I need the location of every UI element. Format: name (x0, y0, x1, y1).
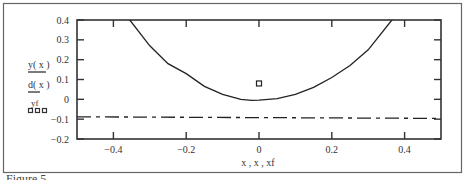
plot-frame (77, 20, 441, 139)
y-tick-label: 0 (64, 94, 69, 105)
x-axis-title: x , x , xf (241, 157, 275, 168)
legend-label-d: d( x ) (28, 79, 50, 91)
x-tick-label: −0.4 (104, 144, 122, 155)
data-point-square (257, 81, 262, 86)
y-tick-label: −0.1 (51, 114, 69, 125)
y-tick-label: 0.4 (57, 15, 70, 26)
plot-area (77, 0, 441, 139)
legend: y( x ) d( x ) yf (28, 59, 50, 113)
x-tick-label: 0.4 (398, 144, 411, 155)
y-tick-label: 0.2 (57, 54, 70, 65)
x-tick-label: 0 (257, 144, 262, 155)
y-tick-label: −0.2 (51, 134, 69, 145)
series-line-y (77, 0, 441, 100)
figure-caption: Figure 5 (6, 173, 46, 180)
x-tick-label: −0.2 (177, 144, 195, 155)
legend-label-y: y( x ) (28, 59, 50, 71)
chart: 0.40.30.20.10−0.1−0.2 −0.4−0.200.20.4 x … (0, 0, 465, 180)
x-tick-label: 0.2 (326, 144, 339, 155)
legend-squares-icon (29, 109, 47, 113)
y-tick-label: 0.3 (57, 34, 70, 45)
series-line-d (77, 117, 441, 119)
y-axis-tick-labels: 0.40.30.20.10−0.1−0.2 (51, 15, 69, 145)
chart-outer-border (4, 4, 462, 173)
y-tick-label: 0.1 (57, 74, 70, 85)
x-axis-tick-labels: −0.4−0.200.20.4 (104, 144, 411, 155)
legend-label-yf: yf (31, 98, 39, 108)
